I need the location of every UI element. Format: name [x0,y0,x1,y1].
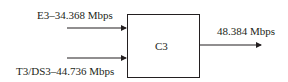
input-label-e3: E3–34.368 Mbps [37,9,113,21]
input-label-t3: T3/DS3–44.736 Mbps [16,65,114,77]
block-label: C3 [155,40,168,52]
output-label: 48.384 Mbps [217,25,275,37]
multiplexer-diagram: E3–34.368 Mbps T3/DS3–44.736 Mbps C3 48.… [0,0,288,82]
